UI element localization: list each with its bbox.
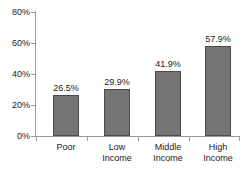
x-axis-label-low-income: Low Income: [89, 142, 145, 164]
y-axis-label-80: 80%: [0, 8, 30, 17]
x-axis-label-poor-line1: Poor: [38, 142, 94, 153]
x-axis-tick-2: [87, 137, 88, 141]
x-axis-label-middle-income: Middle Income: [140, 142, 196, 164]
bar-middle-income: [155, 71, 181, 136]
x-axis-label-middle-income-line1: Middle: [140, 142, 196, 153]
x-axis-tick-5: [239, 137, 240, 141]
y-axis-label-20: 20%: [0, 101, 30, 110]
y-axis-label-0: 0%: [0, 132, 30, 141]
y-axis-label-60: 60%: [0, 39, 30, 48]
y-axis-label-40: 40%: [0, 70, 30, 79]
bar-chart: 80% 60% 40% 20% 0% 26.5% 29.9% 41.9% 57.…: [0, 0, 248, 169]
y-axis-line: [35, 11, 36, 137]
x-axis-label-high-income-line1: High: [190, 142, 246, 153]
x-axis-label-middle-income-line2: Income: [140, 153, 196, 164]
x-axis-tick-1: [36, 137, 37, 141]
bar-poor: [53, 95, 79, 136]
x-axis-label-high-income: High Income: [190, 142, 246, 164]
x-axis-label-high-income-line2: Income: [190, 153, 246, 164]
bar-low-income: [104, 89, 130, 136]
x-axis-tick-4: [189, 137, 190, 141]
x-axis-label-low-income-line2: Income: [89, 153, 145, 164]
bar-high-income: [205, 46, 231, 136]
bar-value-high-income: 57.9%: [193, 34, 243, 44]
bar-value-poor: 26.5%: [41, 83, 91, 93]
bar-value-low-income: 29.9%: [92, 77, 142, 87]
x-axis-tick-3: [138, 137, 139, 141]
x-axis-label-poor: Poor: [38, 142, 94, 153]
x-axis-label-low-income-line1: Low: [89, 142, 145, 153]
bar-value-middle-income: 41.9%: [143, 59, 193, 69]
